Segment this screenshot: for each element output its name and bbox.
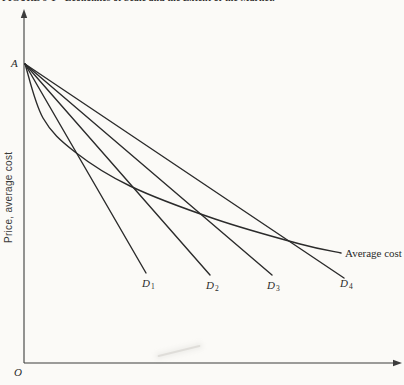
curve-label-d4: D4 <box>340 278 353 291</box>
point-a-label: A <box>11 58 18 69</box>
y-axis-label: Price, average cost <box>4 152 14 243</box>
origin-label: O <box>14 367 22 378</box>
x-axis-arrow-icon <box>393 360 402 366</box>
figure-container: FIGURE 9-1Economies of Scale and the Ext… <box>0 0 404 385</box>
curve-label-d1: D1 <box>142 278 155 291</box>
curve-d1 <box>25 64 146 273</box>
curve-label-d2: D2 <box>206 280 219 293</box>
y-axis-arrow-icon <box>21 9 27 18</box>
curve-d3 <box>25 64 272 275</box>
curve-label-d3: D3 <box>267 280 280 293</box>
curve-label-average-cost: Average cost <box>345 248 402 259</box>
curve-average-cost <box>25 64 341 253</box>
chart-canvas <box>0 0 404 385</box>
